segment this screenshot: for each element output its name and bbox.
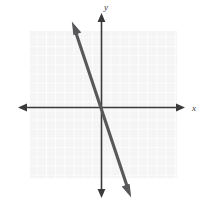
grid-background xyxy=(30,31,177,178)
grid-area xyxy=(30,31,177,178)
x-axis-arrow-right-icon xyxy=(176,104,185,112)
y-axis-arrow-up-icon xyxy=(98,13,106,22)
x-axis-arrow-left-icon xyxy=(18,104,27,112)
coordinate-plane-figure: y x xyxy=(0,0,206,211)
y-axis-label: y xyxy=(103,2,108,12)
graph-canvas: y x xyxy=(0,0,206,211)
y-axis-arrow-down-icon xyxy=(98,189,106,198)
line-arrow-lower-icon xyxy=(122,184,132,198)
x-axis-label: x xyxy=(191,103,196,113)
